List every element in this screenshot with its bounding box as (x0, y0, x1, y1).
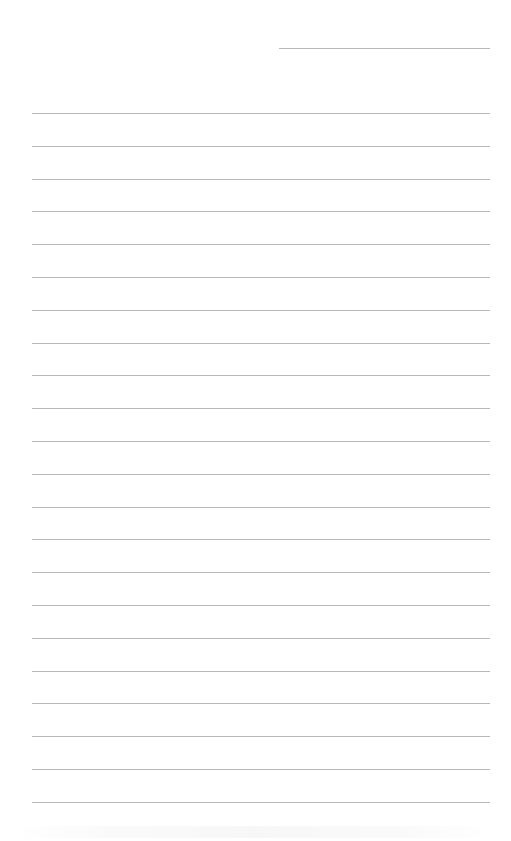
ruled-line (32, 375, 490, 376)
ruled-line (32, 769, 490, 770)
ruled-line (32, 146, 490, 147)
ruled-line (32, 474, 490, 475)
ruled-line (32, 211, 490, 212)
ruled-line (32, 703, 490, 704)
ruled-line (32, 441, 490, 442)
ruled-line (32, 638, 490, 639)
ruled-line (32, 802, 490, 803)
ruled-line (32, 310, 490, 311)
ruled-line (32, 343, 490, 344)
ruled-lines-container (32, 0, 490, 841)
ruled-page (0, 0, 511, 841)
paper-bleed-through (10, 826, 501, 838)
ruled-line (32, 572, 490, 573)
ruled-line (32, 408, 490, 409)
ruled-line (32, 736, 490, 737)
ruled-line (32, 244, 490, 245)
ruled-line (32, 179, 490, 180)
ruled-line (32, 671, 490, 672)
ruled-line (32, 539, 490, 540)
ruled-line (32, 277, 490, 278)
ruled-line (32, 113, 490, 114)
ruled-line (32, 507, 490, 508)
ruled-line (32, 605, 490, 606)
